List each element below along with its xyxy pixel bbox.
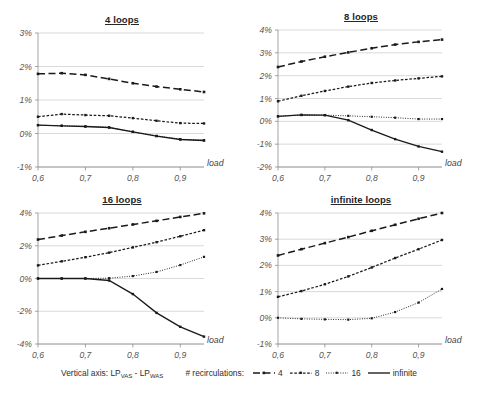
- series-marker-8: [277, 296, 279, 298]
- series-line-16: [278, 289, 442, 320]
- y-tick-label: 0%: [260, 313, 273, 323]
- y-tick-label: 3%: [20, 28, 33, 38]
- series-marker-4: [347, 236, 350, 239]
- series-marker-4: [300, 60, 303, 63]
- series-marker-infinite: [203, 139, 205, 141]
- vertical-axis-prefix: Vertical axis: LP: [61, 368, 121, 378]
- x-tick-label: 0,9: [174, 350, 186, 360]
- x-tick-label: 0,7: [79, 350, 92, 360]
- y-tick-label: 4%: [20, 208, 33, 218]
- chart-svg: 4%3%2%1%0%-1%-2%0,60,70,80,9load: [248, 24, 474, 189]
- series-marker-8: [61, 113, 63, 115]
- chart-svg: 3%2%1%0%-1%0,60,70,80,9load: [8, 27, 236, 189]
- series-marker-8: [347, 275, 349, 277]
- series-marker-infinite: [132, 131, 134, 133]
- legend-item-4[interactable]: 4: [253, 368, 283, 378]
- series-marker-8: [347, 85, 349, 87]
- series-marker-4: [347, 51, 350, 54]
- series-marker-infinite: [84, 277, 86, 279]
- x-tick-label: 0,6: [272, 173, 284, 183]
- y-tick-label: 1%: [260, 287, 273, 297]
- series-marker-4: [155, 220, 158, 223]
- plot-area: 4%2%0%-2%-4%0,60,70,80,9load: [8, 207, 236, 366]
- series-marker-16: [108, 277, 110, 279]
- y-tick-label: 0%: [20, 274, 33, 284]
- series-marker-4: [108, 78, 111, 81]
- legend-swatch-solid-icon: [368, 369, 390, 377]
- y-tick-label: 0%: [260, 116, 273, 126]
- series-marker-4: [324, 55, 327, 58]
- x-tick-label: 0,9: [413, 350, 425, 360]
- series-marker-infinite: [417, 145, 419, 147]
- series-marker-infinite: [371, 129, 373, 131]
- x-tick-label: 0,8: [366, 350, 378, 360]
- y-tick-label: 1%: [260, 94, 273, 104]
- series-marker-4: [203, 91, 206, 94]
- x-tick-label: 0,8: [127, 350, 139, 360]
- y-tick-label: 0%: [20, 129, 33, 139]
- x-axis-title: load: [207, 335, 225, 345]
- vertical-axis-middle: - LP: [132, 368, 150, 378]
- y-tick-label: 3%: [260, 234, 273, 244]
- series-marker-8: [300, 95, 302, 97]
- series-marker-4: [155, 85, 158, 88]
- series-marker-4: [277, 66, 280, 69]
- series-marker-16: [347, 115, 349, 117]
- legend-label-4: 4: [278, 368, 283, 378]
- series-marker-4: [370, 47, 373, 50]
- series-marker-8: [371, 266, 373, 268]
- y-tick-label: 4%: [260, 25, 273, 35]
- series-marker-8: [441, 75, 443, 77]
- legend-caption: # recirculations:: [185, 368, 244, 378]
- series-marker-infinite: [347, 119, 349, 121]
- series-marker-4: [132, 223, 135, 226]
- series-marker-4: [179, 88, 182, 91]
- series-marker-16: [324, 318, 326, 320]
- series-marker-infinite: [394, 138, 396, 140]
- series-marker-4: [37, 73, 40, 76]
- series-marker-16: [417, 302, 419, 304]
- x-tick-label: 0,9: [174, 173, 186, 183]
- series-marker-8: [179, 122, 181, 124]
- series-marker-4: [394, 223, 397, 226]
- series-marker-infinite: [324, 114, 326, 116]
- series-marker-16: [155, 271, 157, 273]
- series-marker-infinite: [277, 115, 279, 117]
- series-line-16: [38, 125, 204, 140]
- x-tick-label: 0,7: [79, 173, 92, 183]
- series-marker-infinite: [203, 335, 205, 337]
- legend-entries: # recirculations: 4 8: [185, 368, 417, 378]
- series-marker-16: [371, 317, 373, 319]
- y-tick-label: -4%: [17, 339, 33, 349]
- series-marker-16: [417, 118, 419, 120]
- y-tick-label: 2%: [19, 241, 33, 251]
- series-marker-infinite: [37, 277, 39, 279]
- series-marker-8: [277, 100, 279, 102]
- series-marker-infinite: [300, 114, 302, 116]
- x-tick-label: 0,6: [272, 350, 284, 360]
- legend-item-8[interactable]: 8: [290, 368, 320, 378]
- series-marker-8: [441, 239, 443, 241]
- series-marker-16: [300, 318, 302, 320]
- series-marker-infinite: [155, 312, 157, 314]
- series-marker-8: [84, 114, 86, 116]
- series-marker-4: [417, 217, 420, 220]
- series-marker-8: [108, 115, 110, 117]
- series-marker-16: [179, 264, 181, 266]
- legend-label-8: 8: [315, 368, 320, 378]
- series-line-infinite: [38, 125, 204, 140]
- x-tick-label: 0,8: [127, 173, 139, 183]
- legend-item-16[interactable]: 16: [326, 368, 360, 378]
- y-tick-label: 4%: [260, 208, 273, 218]
- legend-swatch-short-dash-icon: [290, 369, 312, 377]
- series-marker-infinite: [108, 126, 110, 128]
- series-marker-8: [61, 260, 63, 262]
- series-marker-16: [441, 288, 443, 290]
- y-tick-label: 2%: [259, 260, 273, 270]
- legend-item-infinite[interactable]: infinite: [368, 368, 417, 378]
- legend-label-16: 16: [351, 368, 360, 378]
- series-marker-16: [132, 275, 134, 277]
- series-marker-infinite: [155, 135, 157, 137]
- series-marker-16: [441, 118, 443, 120]
- series-marker-4: [132, 82, 135, 85]
